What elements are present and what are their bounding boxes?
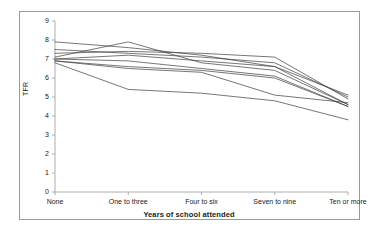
y-tick-label: 8 bbox=[35, 36, 49, 44]
x-category-label: One to three bbox=[93, 198, 163, 206]
chart-figure: 0123456789 NoneOne to threeFour to sixSe… bbox=[0, 0, 378, 237]
y-tick-label: 4 bbox=[35, 112, 49, 120]
y-tick-label: 2 bbox=[35, 150, 49, 158]
y-tick-label: 7 bbox=[35, 55, 49, 63]
y-tick-label: 9 bbox=[35, 17, 49, 25]
y-tick-label: 5 bbox=[35, 93, 49, 101]
y-tick-label: 3 bbox=[35, 131, 49, 139]
data-line bbox=[55, 42, 348, 105]
x-category-label: Seven to nine bbox=[240, 198, 310, 206]
y-tick-label: 1 bbox=[35, 169, 49, 177]
x-axis-title: Years of school attended bbox=[0, 210, 378, 219]
y-axis-title: TFR bbox=[22, 82, 29, 96]
data-line bbox=[55, 42, 348, 105]
x-category-label: None bbox=[20, 198, 90, 206]
x-category-label: Ten or more bbox=[313, 198, 378, 206]
data-series-group bbox=[55, 42, 348, 120]
y-tick-label: 6 bbox=[35, 74, 49, 82]
data-line bbox=[55, 59, 348, 107]
x-category-label: Four to six bbox=[167, 198, 237, 206]
y-tick-label: 0 bbox=[35, 188, 49, 196]
data-line bbox=[55, 51, 348, 99]
data-line bbox=[55, 63, 348, 120]
